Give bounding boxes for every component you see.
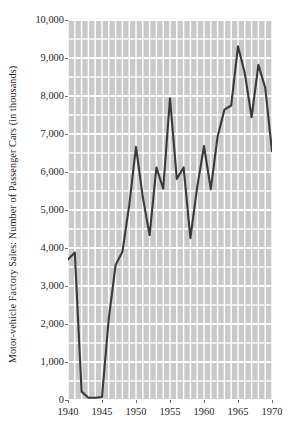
x-tick-label: 1945: [92, 406, 113, 418]
x-tickmark: [68, 400, 69, 403]
y-tick-label: 3,000: [22, 281, 64, 291]
x-tickmark: [204, 400, 205, 403]
x-tick-label: 1955: [160, 406, 181, 418]
x-tick-label: 1970: [262, 406, 283, 418]
y-axis-tick-labels: 10,0009,0008,0007,0006,0005,0004,0003,00…: [22, 0, 64, 429]
horizontal-gridlines: [68, 20, 272, 400]
chart-figure: Motor-vehicle Factory Sales: Number of P…: [0, 0, 290, 429]
chart-canvas: [68, 20, 272, 400]
y-tick-label: 7,000: [22, 129, 64, 139]
y-tick-label: 8,000: [22, 91, 64, 101]
y-tick-label: 10,000: [22, 15, 64, 25]
y-axis-title: Motor-vehicle Factory Sales: Number of P…: [0, 0, 24, 429]
y-tick-label: 6,000: [22, 167, 64, 177]
x-tickmark: [102, 400, 103, 403]
x-tick-label: 1960: [194, 406, 215, 418]
plot-area: [68, 20, 272, 400]
x-tickmark: [170, 400, 171, 403]
x-axis-tick-labels: 1940194519501955196019651970: [0, 406, 290, 426]
x-tick-label: 1965: [228, 406, 249, 418]
x-tickmark: [238, 400, 239, 403]
y-tick-label: 5,000: [22, 205, 64, 215]
y-tickmark: [65, 400, 68, 401]
x-tickmark: [272, 400, 273, 403]
y-tick-label: 2,000: [22, 319, 64, 329]
y-tick-label: 1,000: [22, 357, 64, 367]
y-tick-label: 9,000: [22, 53, 64, 63]
y-tick-label: 0: [22, 395, 64, 405]
x-tickmark: [136, 400, 137, 403]
y-tick-label: 4,000: [22, 243, 64, 253]
x-tick-label: 1950: [126, 406, 147, 418]
x-tick-label: 1940: [58, 406, 79, 418]
